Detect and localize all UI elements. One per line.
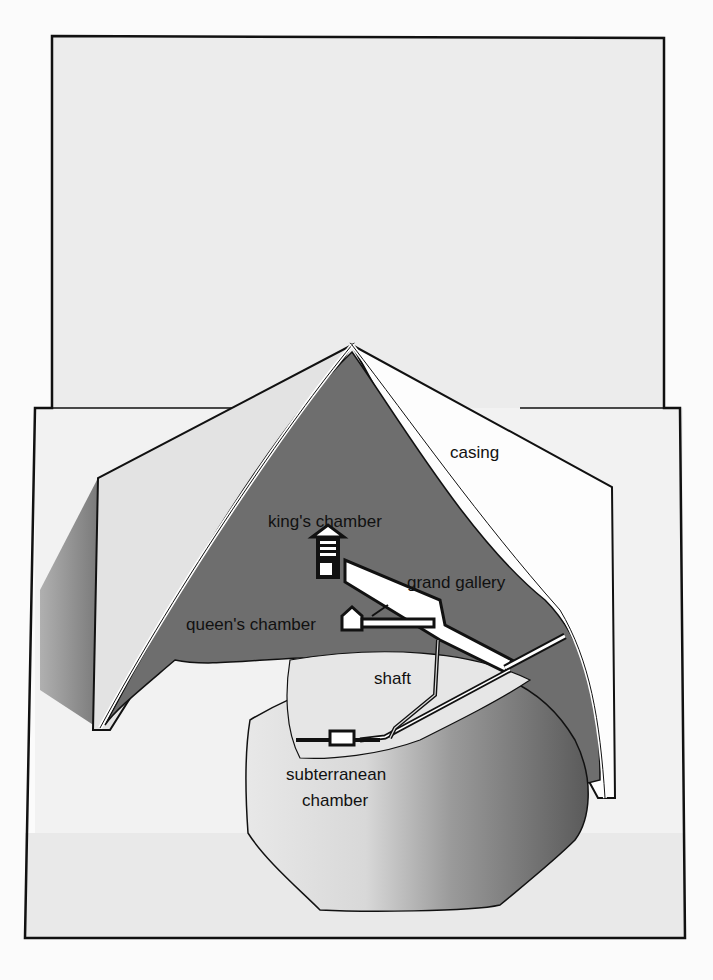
label-shaft: shaft (374, 669, 411, 688)
label-casing: casing (450, 443, 499, 462)
kings-chamber-icon (312, 525, 344, 579)
label-chamber: chamber (302, 791, 368, 810)
label-kings-chamber: king's chamber (268, 512, 382, 531)
label-queens-chamber: queen's chamber (186, 615, 316, 634)
label-subterranean: subterranean (286, 765, 386, 784)
label-grand-gallery: grand gallery (407, 573, 506, 592)
pyramid-cross-section-diagram: casing king's chamber grand gallery quee… (0, 0, 713, 980)
